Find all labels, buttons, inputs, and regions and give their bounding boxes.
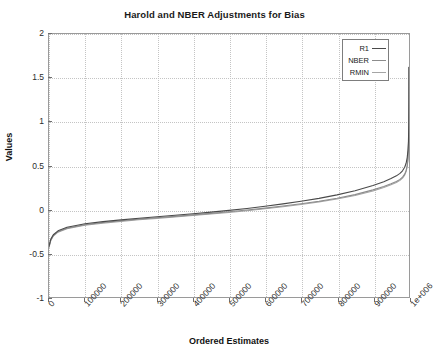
x-axis-title: Ordered Estimates [48,336,410,346]
y-tick-mark [48,210,52,211]
legend-label: RMIN [350,68,369,77]
curve-r1 [49,67,409,246]
x-tick-label: 0 [46,298,57,308]
legend-line-swatch [372,72,386,73]
curve-rmin [49,67,409,247]
legend-item-nber[interactable]: NBER [345,54,386,66]
legend-line-swatch [372,48,386,49]
y-tick-mark [48,33,52,34]
y-axis-tick-labels: -1-0.500.511.52 [0,33,44,298]
curve-nber [49,67,409,247]
y-tick-mark [48,77,52,78]
y-tick-label: 2 [4,28,44,38]
legend-line-swatch [372,60,386,61]
y-tick-mark [48,121,52,122]
y-tick-mark [48,254,52,255]
x-tick-label: 1e+006 [408,281,435,309]
chart-title: Harold and NBER Adjustments for Bias [0,9,429,20]
y-tick-label: 0 [4,205,44,215]
y-tick-label: 0.5 [4,161,44,171]
chart-legend: R1NBERRMIN [342,39,389,81]
y-tick-label: -1 [4,293,44,303]
y-tick-label: 1.5 [4,72,44,82]
legend-label: NBER [348,56,369,65]
legend-item-r1[interactable]: R1 [345,42,386,54]
legend-item-rmin[interactable]: RMIN [345,66,386,78]
y-tick-label: -0.5 [4,249,44,259]
y-tick-mark [48,166,52,167]
legend-label: R1 [359,44,369,53]
y-tick-label: 1 [4,116,44,126]
